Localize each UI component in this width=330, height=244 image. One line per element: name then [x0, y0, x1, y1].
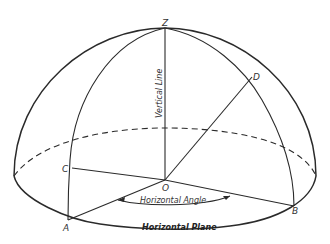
horizontal-angle-label: Horizontal Angle: [140, 196, 206, 205]
meridian-zb: [165, 28, 294, 206]
horizontal-plane-label: Horizontal Plane: [142, 223, 217, 232]
point-label-o: O: [162, 183, 169, 193]
hemisphere-diagram: Z D C O A B Vertical Line Horizontal Ang…: [0, 0, 330, 244]
line-od: [165, 77, 252, 180]
meridian-za: [68, 28, 165, 220]
point-label-b: B: [292, 206, 298, 216]
point-label-d: D: [253, 72, 260, 82]
point-label-c: C: [62, 164, 69, 174]
point-label-z: Z: [161, 18, 169, 28]
diagram-canvas: Z D C O A B Vertical Line Horizontal Ang…: [0, 0, 330, 244]
point-label-a: A: [62, 223, 69, 233]
line-oc: [72, 168, 165, 180]
vertical-line-label: Vertical Line: [155, 69, 164, 118]
